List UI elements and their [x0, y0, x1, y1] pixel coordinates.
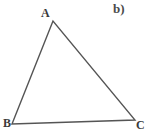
vertex-label-a: A [41, 7, 50, 19]
triangle-outline [12, 21, 135, 124]
vertex-label-c: C [136, 119, 145, 131]
part-label: b) [113, 2, 125, 15]
triangle-figure: A B C b) [0, 0, 149, 140]
triangle-drawing [0, 0, 149, 140]
vertex-label-b: B [3, 117, 11, 129]
